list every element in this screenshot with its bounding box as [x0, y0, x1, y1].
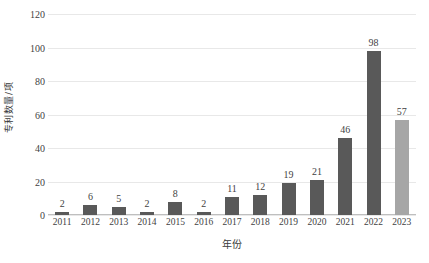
bar-value-label: 57 — [397, 107, 407, 117]
bar-value-label: 46 — [340, 125, 350, 135]
bar[interactable] — [310, 180, 324, 215]
bar-value-label: 6 — [88, 192, 93, 202]
bar-slot: 12 — [246, 14, 274, 215]
x-axis-tick-label: 2014 — [138, 217, 157, 227]
bar-slot: 57 — [388, 14, 416, 215]
x-axis-tick-label: 2023 — [392, 217, 411, 227]
bar[interactable] — [282, 183, 296, 215]
y-axis-title: 专利数量/项 — [0, 0, 18, 215]
bar[interactable] — [83, 205, 97, 215]
bar-value-label: 19 — [284, 170, 294, 180]
bar[interactable] — [197, 212, 211, 215]
x-axis-tick-label: 2011 — [53, 217, 72, 227]
bar-value-label: 11 — [227, 184, 237, 194]
bar-slot: 11 — [218, 14, 246, 215]
y-axis-tick-labels: 020406080100120 — [18, 0, 48, 226]
bar-slot: 21 — [303, 14, 331, 215]
y-axis-tick-label: 0 — [40, 210, 45, 221]
bar-value-label: 8 — [173, 189, 178, 199]
plot-area: 26528211121921469857 — [48, 14, 416, 215]
x-axis-tick-label: 2021 — [336, 217, 355, 227]
x-axis-tick-label: 2015 — [166, 217, 185, 227]
bar-value-label: 2 — [201, 199, 206, 209]
x-axis-tick-label: 2017 — [223, 217, 242, 227]
bar[interactable] — [253, 195, 267, 215]
bar-value-label: 5 — [116, 194, 121, 204]
bar-slot: 98 — [359, 14, 387, 215]
bar[interactable] — [367, 51, 381, 215]
bar-slot: 19 — [274, 14, 302, 215]
x-axis-tick-label: 2020 — [307, 217, 326, 227]
bar[interactable] — [112, 207, 126, 215]
x-axis-tick-label: 2018 — [251, 217, 270, 227]
x-axis-tick-label: 2016 — [194, 217, 213, 227]
bar[interactable] — [55, 212, 69, 215]
bar-chart: 专利数量/项 020406080100120 26528211121921469… — [0, 0, 429, 263]
bars-layer: 26528211121921469857 — [48, 14, 416, 215]
bar-value-label: 12 — [255, 182, 265, 192]
bar-slot: 6 — [76, 14, 104, 215]
bar-value-label: 21 — [312, 167, 322, 177]
bar[interactable] — [338, 138, 352, 215]
bar-slot: 46 — [331, 14, 359, 215]
bar-slot: 8 — [161, 14, 189, 215]
bar[interactable] — [140, 212, 154, 215]
x-axis-tick-labels: 2011201220132014201520162017201820192020… — [48, 217, 416, 233]
x-axis-tick-label: 2022 — [364, 217, 383, 227]
x-axis-tick-label: 2012 — [81, 217, 100, 227]
bar-value-label: 98 — [369, 38, 379, 48]
x-axis-title: 年份 — [48, 236, 416, 251]
y-axis-tick-label: 120 — [30, 9, 45, 20]
bar-value-label: 2 — [145, 199, 150, 209]
y-axis-tick-label: 20 — [35, 176, 45, 187]
y-axis-tick-label: 100 — [30, 42, 45, 53]
x-axis-tick-label: 2013 — [109, 217, 128, 227]
bar-value-label: 2 — [60, 199, 65, 209]
bar[interactable] — [395, 120, 409, 215]
bar[interactable] — [225, 197, 239, 215]
bar[interactable] — [168, 202, 182, 215]
bar-slot: 2 — [133, 14, 161, 215]
bar-slot: 2 — [190, 14, 218, 215]
x-axis-tick-label: 2019 — [279, 217, 298, 227]
y-axis-tick-label: 40 — [35, 143, 45, 154]
y-axis-tick-label: 60 — [35, 109, 45, 120]
y-axis-tick-label: 80 — [35, 76, 45, 87]
bar-slot: 5 — [105, 14, 133, 215]
y-axis-title-text: 专利数量/项 — [3, 82, 16, 133]
bar-slot: 2 — [48, 14, 76, 215]
gridline — [48, 215, 416, 216]
